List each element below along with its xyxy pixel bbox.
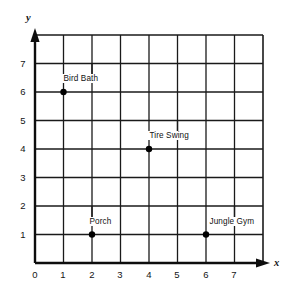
coordinate-grid-figure	[0, 0, 288, 290]
y-tick-7: 7	[17, 59, 29, 69]
point-porch	[89, 231, 95, 237]
x-tick-6: 6	[200, 270, 212, 280]
label-leader-lines	[92, 64, 235, 221]
x-tick-3: 3	[114, 270, 126, 280]
label-bird-bath: Bird Bath	[62, 74, 100, 83]
data-points	[60, 89, 209, 238]
y-tick-1: 1	[17, 230, 29, 240]
label-jungle-gym: Jungle Gym	[208, 217, 256, 226]
y-tick-5: 5	[17, 116, 29, 126]
label-porch: Porch	[88, 217, 113, 226]
point-tire-swing	[146, 146, 152, 152]
y-axis-label: y	[26, 13, 31, 24]
y-tick-4: 4	[17, 144, 29, 154]
point-bird-bath	[60, 89, 66, 95]
x-tick-1: 1	[57, 270, 69, 280]
label-tire-swing: Tire Swing	[148, 131, 190, 140]
y-tick-6: 6	[17, 87, 29, 97]
point-jungle-gym	[203, 231, 209, 237]
y-tick-2: 2	[17, 201, 29, 211]
x-tick-5: 5	[171, 270, 183, 280]
y-tick-3: 3	[17, 173, 29, 183]
x-tick-7: 7	[228, 270, 240, 280]
x-tick-4: 4	[143, 270, 155, 280]
x-axis-label: x	[274, 258, 279, 269]
x-tick-0: 0	[29, 270, 41, 280]
x-tick-2: 2	[86, 270, 98, 280]
